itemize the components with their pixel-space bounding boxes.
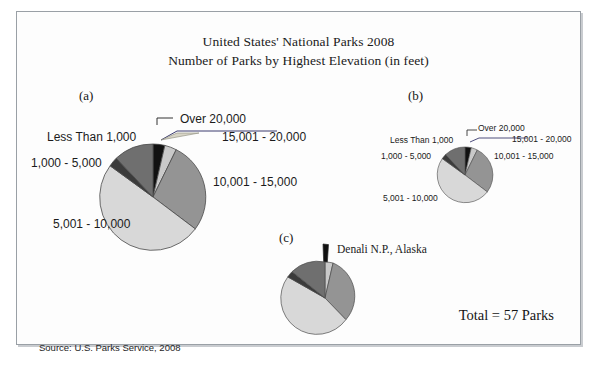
label-b-1000-5000: 1,000 - 5,000 bbox=[381, 151, 431, 161]
panel-label-a: (a) bbox=[79, 88, 93, 104]
label-b-over-20000: Over 20,000 bbox=[478, 123, 525, 133]
chart-title-line-1: United States' National Parks 2008 bbox=[17, 34, 580, 50]
chart-title-line-2: Number of Parks by Highest Elevation (in… bbox=[17, 53, 580, 69]
label-a-15001-20000: 15,001 - 20,000 bbox=[222, 130, 306, 144]
panel-label-b: (b) bbox=[408, 88, 423, 104]
total-parks-label: Total = 57 Parks bbox=[459, 307, 554, 324]
label-b-5001-10000: 5,001 - 10,000 bbox=[383, 193, 438, 203]
figure-frame: United States' National Parks 2008 Numbe… bbox=[16, 11, 581, 345]
callout-denali: Denali N.P., Alaska bbox=[337, 243, 427, 255]
label-a-1000-5000: 1,000 - 5,000 bbox=[31, 156, 102, 170]
label-a-over-20000: Over 20,000 bbox=[180, 112, 246, 126]
label-b-15001-20000: 15,001 - 20,000 bbox=[512, 134, 572, 144]
label-a-less-than-1000: Less Than 1,000 bbox=[47, 130, 136, 144]
source-label: Source: U.S. Parks Service, 2008 bbox=[39, 342, 181, 353]
label-a-10001-15000: 10,001 - 15,000 bbox=[213, 175, 297, 189]
label-a-5001-10000: 5,001 - 10,000 bbox=[53, 217, 130, 231]
label-b-less-than-1000: Less Than 1,000 bbox=[390, 135, 453, 145]
leader-line-over-20000-b bbox=[467, 130, 477, 136]
leader-line-over-20000-a bbox=[157, 118, 173, 125]
label-b-10001-15000: 10,001 - 15,000 bbox=[494, 151, 554, 161]
